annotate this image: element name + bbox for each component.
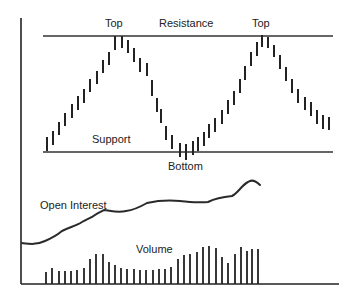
- open-interest-line: [22, 181, 260, 244]
- label-resistance: Resistance: [159, 17, 213, 29]
- support-resistance-lines: [43, 36, 333, 152]
- label-open-interest: Open Interest: [40, 199, 107, 211]
- label-volume: Volume: [136, 243, 173, 255]
- label-top-left: Top: [105, 17, 123, 29]
- label-top-right: Top: [252, 17, 270, 29]
- label-support: Support: [92, 133, 131, 145]
- price-bars: [47, 35, 329, 160]
- double-top-diagram: Top Resistance Top Support Bottom Open I…: [0, 0, 354, 306]
- label-bottom: Bottom: [168, 160, 203, 172]
